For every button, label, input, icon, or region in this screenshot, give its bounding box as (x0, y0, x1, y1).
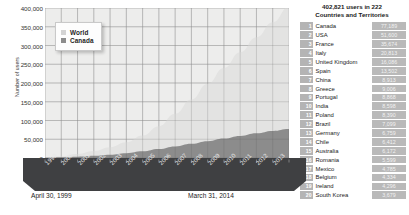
country-row: 20South Korea3,679 (300, 191, 406, 200)
country-list: 1Canada77,1892USA51,6003France35,6744Ita… (300, 22, 406, 200)
country-row: 12Brazil7,099 (300, 120, 406, 129)
country-ranking-panel: 402,821 users in 222 Countries and Terri… (296, 2, 408, 207)
country-name: China (313, 77, 372, 83)
start-date-caption: April 30, 1999 (31, 192, 72, 199)
country-value: 4,296 (372, 183, 406, 191)
panel-title-line2: Countries and Territories (300, 11, 404, 19)
country-row: 15Australia6,172 (300, 146, 406, 155)
country-rank-badge: 1 (300, 22, 313, 30)
country-name: USA (313, 32, 372, 38)
y-axis-tick-5: 150,000 (1, 98, 43, 105)
country-name: United Kingdom (313, 59, 372, 65)
y-axis-tick-3: 250,000 (1, 61, 43, 68)
country-rank-badge: 15 (300, 147, 313, 155)
legend-swatch-world (61, 30, 66, 35)
chart-infographic: Number of users 400,000350,000300,000250… (0, 0, 409, 215)
country-value: 16,086 (372, 58, 406, 66)
country-value: 13,502 (372, 67, 406, 75)
country-row: 16Romania5,599 (300, 155, 406, 164)
country-name: Australia (313, 148, 372, 154)
country-name: Italy (313, 50, 372, 56)
country-name: Canada (313, 23, 372, 29)
country-value: 6,759 (372, 129, 406, 137)
country-rank-badge: 9 (300, 94, 313, 102)
country-rank-badge: 11 (300, 111, 313, 119)
country-value: 6,412 (372, 138, 406, 146)
country-value: 9,006 (372, 85, 406, 93)
country-name: Chile (313, 139, 372, 145)
country-name: Poland (313, 112, 372, 118)
legend-swatch-canada (61, 38, 66, 43)
country-row: 18Belgium4,334 (300, 173, 406, 182)
country-value: 8,868 (372, 94, 406, 102)
country-value: 20,813 (372, 49, 406, 57)
country-name: Brazil (313, 121, 372, 127)
legend-label-world: World (70, 29, 89, 36)
country-value: 6,172 (372, 147, 406, 155)
country-row: 1Canada77,189 (300, 22, 406, 31)
country-value: 8,913 (372, 76, 406, 84)
country-name: Mexico (313, 166, 372, 172)
panel-title-line1: 402,821 users in 222 (300, 3, 404, 11)
country-rank-badge: 20 (300, 191, 313, 199)
country-value: 4,785 (372, 165, 406, 173)
country-row: 7China8,913 (300, 75, 406, 84)
legend-label-canada: Canada (70, 37, 94, 44)
country-row: 5United Kingdom16,086 (300, 58, 406, 67)
country-row: 10India8,598 (300, 102, 406, 111)
country-row: 14Chile6,412 (300, 138, 406, 147)
country-value: 4,334 (372, 174, 406, 182)
end-date-caption: March 31, 2014 (188, 192, 234, 199)
country-row: 3France35,674 (300, 40, 406, 49)
country-rank-badge: 14 (300, 138, 313, 146)
country-rank-badge: 7 (300, 76, 313, 84)
country-name: France (313, 41, 372, 47)
country-name: Ireland (313, 183, 372, 189)
country-name: South Korea (313, 192, 372, 198)
country-rank-badge: 2 (300, 31, 313, 39)
legend-item-world: World (61, 29, 94, 36)
country-row: 2USA51,600 (300, 31, 406, 40)
country-value: 5,599 (372, 156, 406, 164)
country-row: 6Spain13,502 (300, 66, 406, 75)
country-row: 11Poland8,390 (300, 111, 406, 120)
country-rank-badge: 13 (300, 129, 313, 137)
country-row: 8Greece9,006 (300, 84, 406, 93)
country-rank-badge: 5 (300, 58, 313, 66)
y-axis-tick-2: 300,000 (1, 42, 43, 49)
country-rank-badge: 8 (300, 85, 313, 93)
legend-item-canada: Canada (61, 37, 94, 44)
country-value: 8,598 (372, 102, 406, 110)
country-name: India (313, 103, 372, 109)
panel-title: 402,821 users in 222 Countries and Terri… (296, 2, 408, 20)
chart-legend: World Canada (55, 22, 102, 51)
y-axis-tick-1: 350,000 (1, 23, 43, 30)
country-rank-badge: 3 (300, 40, 313, 48)
country-rank-badge: 10 (300, 102, 313, 110)
country-row: 4Italy20,813 (300, 49, 406, 58)
x-axis-tick-labels: 1999200020012002200320042005200620072008… (45, 160, 289, 190)
country-name: Greece (313, 86, 372, 92)
country-value: 8,390 (372, 111, 406, 119)
country-name: Portugal (313, 94, 372, 100)
y-axis-tick-7: 50,000 (1, 136, 43, 143)
country-rank-badge: 12 (300, 120, 313, 128)
country-row: 19Ireland4,296 (300, 182, 406, 191)
country-rank-badge: 6 (300, 67, 313, 75)
country-row: 13Germany6,759 (300, 129, 406, 138)
country-name: Germany (313, 130, 372, 136)
country-rank-badge: 4 (300, 49, 313, 57)
country-value: 51,600 (372, 31, 406, 39)
y-axis-tick-4: 200,000 (1, 80, 43, 87)
country-name: Romania (313, 157, 372, 163)
country-value: 77,189 (372, 22, 406, 30)
country-row: 9Portugal8,868 (300, 93, 406, 102)
y-axis-tick-6: 100,000 (1, 117, 43, 124)
country-name: Belgium (313, 174, 372, 180)
country-name: Spain (313, 68, 372, 74)
country-value: 3,679 (372, 191, 406, 199)
country-row: 17Mexico4,785 (300, 164, 406, 173)
country-value: 7,099 (372, 120, 406, 128)
country-value: 35,674 (372, 40, 406, 48)
y-axis-tick-0: 400,000 (1, 5, 43, 12)
